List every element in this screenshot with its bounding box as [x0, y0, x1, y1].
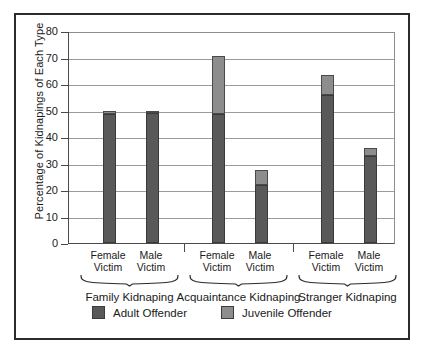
bar-segment-adult-offender — [255, 185, 268, 243]
bar-stack — [146, 111, 159, 244]
bar-segment-adult-offender — [212, 114, 225, 243]
y-axis-tick-label: 40 — [28, 132, 58, 143]
x-tick-line-2: Victim — [228, 261, 292, 273]
gridline — [69, 112, 394, 113]
bar-segment-juvenile-offender — [212, 56, 225, 114]
y-axis-tick-label: 10 — [28, 212, 58, 223]
gridline — [69, 85, 394, 86]
legend-item: Juvenile Offender — [221, 306, 332, 319]
y-axis-tick — [61, 32, 68, 33]
y-axis-tick — [61, 244, 68, 245]
bar-stack — [212, 56, 225, 243]
legend-label: Juvenile Offender — [242, 307, 332, 319]
gridline — [69, 165, 394, 166]
gridline — [69, 32, 394, 33]
y-axis-tick — [61, 218, 68, 219]
y-axis-tick-label: 50 — [28, 106, 58, 117]
bar-segment-juvenile-offender — [146, 111, 159, 114]
x-tick-line-2: Victim — [337, 261, 401, 273]
bar-segment-juvenile-offender — [321, 75, 334, 95]
y-axis-tick — [61, 85, 68, 86]
y-axis-tick — [61, 138, 68, 139]
plot-area — [68, 32, 395, 244]
bar-segment-adult-offender — [146, 113, 159, 243]
y-axis-tick-label: 30 — [28, 159, 58, 170]
gridline — [69, 191, 394, 192]
x-tick-line-1: Male — [228, 249, 292, 261]
bar-segment-juvenile-offender — [103, 111, 116, 115]
y-axis-tick — [61, 165, 68, 166]
bar-segment-juvenile-offender — [364, 148, 377, 156]
x-axis-tick-label: MaleVictim — [337, 249, 401, 273]
legend-label: Adult Offender — [113, 307, 187, 319]
bar-stack — [321, 75, 334, 243]
y-axis-tick-label: 70 — [28, 53, 58, 64]
bar-segment-adult-offender — [321, 95, 334, 243]
gridline — [69, 59, 394, 60]
bar-stack — [255, 170, 268, 243]
y-axis-tick-label: 60 — [28, 79, 58, 90]
bar-stack — [103, 111, 116, 244]
group-brace — [189, 275, 288, 288]
legend-swatch — [92, 306, 105, 319]
x-axis-tick-label: MaleVictim — [119, 249, 183, 273]
group-label: Stranger Kidnaping — [258, 291, 424, 304]
bar-segment-adult-offender — [103, 114, 116, 243]
chart-figure: Percentage of Kidnapings of Each Type 01… — [14, 13, 410, 340]
y-axis-tick-label: 80 — [28, 26, 58, 37]
x-tick-line-1: Male — [337, 249, 401, 261]
legend-swatch — [221, 306, 234, 319]
y-axis-tick — [61, 112, 68, 113]
y-axis-tick — [61, 59, 68, 60]
y-axis-tick — [61, 191, 68, 192]
y-axis-tick-label: 20 — [28, 185, 58, 196]
group-brace — [298, 275, 397, 288]
x-axis-tick-label: MaleVictim — [228, 249, 292, 273]
bar-segment-juvenile-offender — [255, 170, 268, 185]
bar-stack — [364, 148, 377, 243]
chart-legend: Adult OffenderJuvenile Offender — [16, 306, 408, 319]
legend-item: Adult Offender — [92, 306, 187, 319]
x-tick-line-2: Victim — [119, 261, 183, 273]
gridline — [69, 218, 394, 219]
y-axis-tick-label: 0 — [28, 238, 58, 249]
x-tick-line-1: Male — [119, 249, 183, 261]
group-brace — [80, 275, 179, 288]
bar-segment-adult-offender — [364, 156, 377, 243]
gridline — [69, 138, 394, 139]
